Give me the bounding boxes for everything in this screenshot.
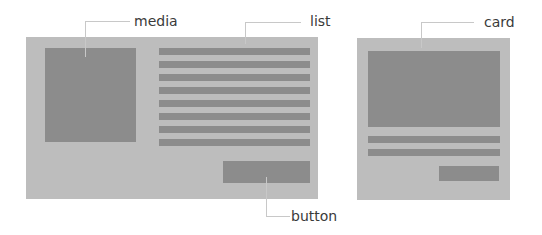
button-label: button [291,208,337,224]
list-leader-line [245,22,301,44]
list-row [159,139,310,146]
button-leader-line [266,177,290,217]
list-row [159,61,310,68]
list-row [159,74,310,81]
list-row [159,100,310,107]
list-row [159,126,310,133]
card-label: card [484,14,515,30]
card-media-block [368,51,500,127]
card-leader-line [421,22,474,48]
media-label: media [134,13,178,29]
list-row [159,113,310,120]
card-text-row [368,149,500,156]
list-label: list [310,13,331,29]
media-leader-line [85,21,130,57]
card-text-row [368,136,500,143]
list-row [159,87,310,94]
list-row [159,48,310,55]
card-button-block [439,166,499,181]
media-block [45,48,136,142]
